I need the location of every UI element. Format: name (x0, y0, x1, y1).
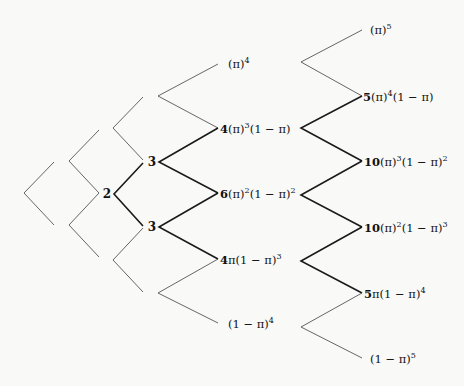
level4-term-3: 4π(1 − π)3 (220, 253, 281, 267)
level4-term-1: 4(π)3(1 − π) (220, 122, 290, 136)
branch-level2-bottom (69, 193, 99, 257)
level5-term-0: (π)5 (370, 23, 392, 37)
branch-from-6pi2 (301, 161, 362, 227)
level5-term-5: (1 − π)5 (370, 352, 416, 366)
branch-level4-top (158, 64, 218, 128)
branch-level3-top (113, 97, 143, 160)
level4-term-2: 6(π)2(1 − π)2 (220, 187, 296, 201)
branch-level3-bottom (113, 228, 143, 292)
node-2: 2 (103, 187, 111, 201)
level5-term-4: 5π(1 − π)4 (364, 287, 425, 301)
branch-from-4pi (301, 227, 362, 293)
level5-term-1: 5(π)4(1 − π) (363, 90, 433, 104)
node-3-bottom: 3 (148, 220, 156, 234)
level4-term-4: (1 − π)4 (228, 317, 274, 331)
branch-level2-top (69, 130, 99, 193)
branch-from-2 (114, 163, 143, 226)
branch-from-4pi3 (301, 96, 362, 161)
branch-from-pi4 (301, 30, 362, 96)
branch-from-3-top (159, 128, 218, 193)
level4-term-0: (π)4 (228, 57, 250, 71)
branch-level1 (24, 162, 54, 225)
branch-from-3-bottom (159, 193, 218, 259)
branch-level4-bottom (158, 259, 218, 323)
branch-from-1mpi4 (301, 293, 362, 358)
level5-term-2: 10(π)3(1 − π)2 (364, 155, 448, 169)
level5-term-3: 10(π)2(1 − π)3 (364, 221, 448, 235)
node-3-top: 3 (148, 155, 156, 169)
